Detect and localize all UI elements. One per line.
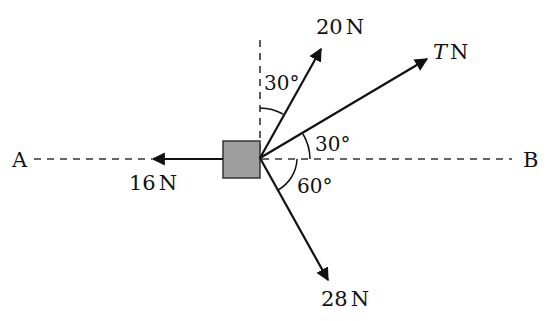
- force-arrow-20n: [260, 49, 321, 158]
- point-label-b: B: [523, 148, 538, 172]
- angle-arc-ab-28n: [278, 159, 297, 190]
- force-label-20n: 20N: [316, 15, 364, 39]
- force-diagram: A B 20N TN 28N 16N 30° 30° 60°: [0, 0, 548, 321]
- angle-arc-vertical-20n: [260, 108, 283, 114]
- angle-arc-ab-tn: [303, 134, 310, 159]
- point-label-a: A: [11, 148, 28, 172]
- angle-label-ab-28n: 60°: [297, 174, 332, 198]
- force-label-tn: TN: [433, 40, 468, 64]
- object-box: [223, 141, 260, 178]
- angle-label-ab-tn: 30°: [315, 132, 350, 156]
- force-label-28n: 28N: [321, 287, 369, 311]
- force-label-16n: 16N: [129, 171, 177, 195]
- angle-label-vertical-20n: 30°: [264, 71, 299, 95]
